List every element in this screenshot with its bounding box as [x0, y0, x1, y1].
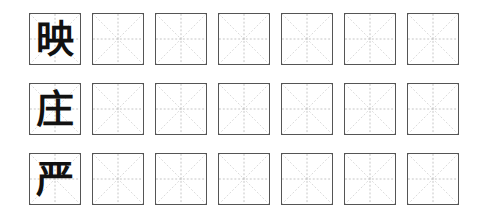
mizige-guide-icon	[282, 84, 332, 134]
mizige-guide-icon	[408, 14, 458, 64]
mizige-guide-icon	[93, 84, 143, 134]
blank-practice-cell[interactable]	[281, 83, 333, 135]
mizige-guide-icon	[345, 84, 395, 134]
blank-practice-cell[interactable]	[92, 153, 144, 205]
blank-practice-cell[interactable]	[281, 13, 333, 65]
blank-practice-cell[interactable]	[344, 13, 396, 65]
mizige-guide-icon	[345, 154, 395, 204]
mizige-guide-icon	[219, 84, 269, 134]
mizige-guide-icon	[282, 154, 332, 204]
mizige-guide-icon	[408, 84, 458, 134]
blank-practice-cell[interactable]	[155, 153, 207, 205]
practice-row-1: 映	[29, 13, 459, 65]
model-character-cell: 庄	[29, 83, 81, 135]
blank-practice-cell[interactable]	[218, 153, 270, 205]
blank-practice-cell[interactable]	[92, 13, 144, 65]
mizige-guide-icon	[219, 14, 269, 64]
model-character-cell: 严	[29, 153, 81, 205]
mizige-guide-icon	[93, 14, 143, 64]
mizige-guide-icon	[156, 154, 206, 204]
blank-practice-cell[interactable]	[407, 83, 459, 135]
blank-practice-cell[interactable]	[281, 153, 333, 205]
blank-practice-cell[interactable]	[218, 83, 270, 135]
model-character: 庄	[30, 84, 80, 134]
practice-row-3: 严	[29, 153, 459, 205]
blank-practice-cell[interactable]	[407, 153, 459, 205]
model-character: 映	[30, 14, 80, 64]
character-practice-sheet: 映 庄	[0, 0, 486, 219]
mizige-guide-icon	[408, 154, 458, 204]
blank-practice-cell[interactable]	[344, 153, 396, 205]
blank-practice-cell[interactable]	[407, 13, 459, 65]
blank-practice-cell[interactable]	[218, 13, 270, 65]
blank-practice-cell[interactable]	[92, 83, 144, 135]
mizige-guide-icon	[345, 14, 395, 64]
mizige-guide-icon	[93, 154, 143, 204]
model-character: 严	[30, 154, 80, 204]
mizige-guide-icon	[156, 14, 206, 64]
model-character-cell: 映	[29, 13, 81, 65]
practice-row-2: 庄	[29, 83, 459, 135]
mizige-guide-icon	[219, 154, 269, 204]
mizige-guide-icon	[282, 14, 332, 64]
blank-practice-cell[interactable]	[155, 13, 207, 65]
mizige-guide-icon	[156, 84, 206, 134]
blank-practice-cell[interactable]	[344, 83, 396, 135]
blank-practice-cell[interactable]	[155, 83, 207, 135]
